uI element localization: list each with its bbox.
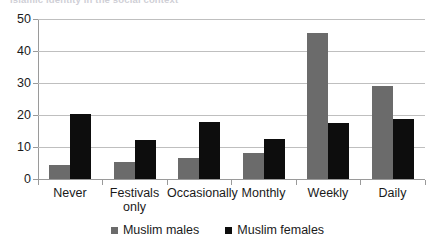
x-axis-label-weekly: Weekly [296,186,360,200]
gridline-10 [38,147,425,148]
x-axis-label-monthly: Monthly [231,186,296,200]
bar-daily-muslim-males [372,86,393,179]
bar-monthly-muslim-males [243,153,264,179]
square-swatch-icon-males [111,227,118,234]
x-tick-end [425,180,426,185]
x-axis-label-festivals-only: Festivals only [102,186,167,214]
bar-never-muslim-females [70,114,91,179]
x-axis-label-festivals-only-line2: only [102,200,167,214]
bar-weekly-muslim-females [328,123,349,179]
x-axis-label-daily-line1: Daily [360,186,425,200]
x-axis-label-monthly-line1: Monthly [231,186,296,200]
legend-label-muslim-males: Muslim males [123,224,199,237]
bar-occasionally-muslim-females [199,122,220,179]
square-swatch-icon-females [225,227,232,234]
y-axis-label-40: 40 [6,45,31,58]
gridline-40 [38,51,425,52]
x-tick-2 [167,180,168,185]
gridline-20 [38,115,425,116]
x-axis-label-festivals-only-line1: Festivals [102,186,167,200]
bar-weekly-muslim-males [307,33,328,179]
gridline-30 [38,83,425,84]
x-axis-label-never: Never [38,186,102,200]
x-tick-3 [231,180,232,185]
legend-item-muslim-males: Muslim males [111,224,199,237]
legend-label-muslim-females: Muslim females [237,224,324,237]
x-tick-5 [360,180,361,185]
y-axis-label-0: 0 [6,173,31,186]
bar-festivals-only-muslim-females [135,140,156,179]
x-tick-1 [102,180,103,185]
y-axis-label-50: 50 [6,13,31,26]
x-axis-label-occasionally-line1: Occasionally [167,186,231,200]
grouped-bar-chart: 50 40 30 20 10 0 Never Festivals only Oc… [0,0,435,248]
x-tick-start [38,180,39,185]
x-axis-label-never-line1: Never [38,186,102,200]
y-axis-label-10: 10 [6,141,31,154]
plot-area [38,19,425,179]
bar-daily-muslim-females [393,119,414,179]
x-tick-4 [296,180,297,185]
bar-monthly-muslim-females [264,139,285,179]
legend-item-muslim-females: Muslim females [225,224,324,237]
x-axis-label-occasionally: Occasionally [167,186,231,200]
x-axis-label-daily: Daily [360,186,425,200]
gridline-50 [38,19,425,20]
x-axis-label-weekly-line1: Weekly [296,186,360,200]
bar-never-muslim-males [49,165,70,179]
chart-legend: Muslim males Muslim females [0,224,435,237]
y-axis-label-20: 20 [6,109,31,122]
bar-festivals-only-muslim-males [114,162,135,179]
y-axis-label-30: 30 [6,77,31,90]
bar-occasionally-muslim-males [178,158,199,179]
